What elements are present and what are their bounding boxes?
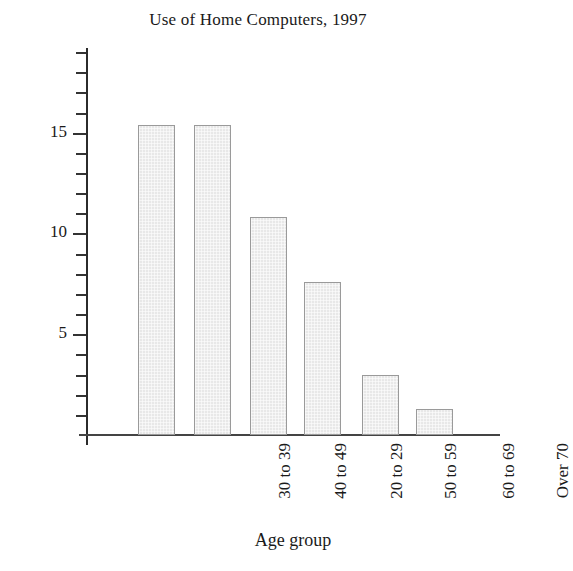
y-axis-minor-tick — [76, 193, 86, 195]
y-axis-minor-tick — [76, 213, 86, 215]
bar — [416, 409, 453, 435]
plot-area: 51015 — [86, 48, 500, 435]
y-axis-minor-tick — [76, 92, 86, 94]
y-axis-tick-label: 15 — [50, 122, 67, 142]
y-axis-minor-tick — [76, 415, 86, 417]
x-axis-title: Age group — [86, 530, 500, 551]
chart-title: Use of Home Computers, 1997 — [0, 10, 516, 30]
bar — [138, 125, 175, 435]
y-axis-minor-tick — [76, 173, 86, 175]
y-axis-minor-tick — [76, 153, 86, 155]
y-axis-minor-tick — [76, 354, 86, 356]
y-axis-minor-tick — [76, 375, 86, 377]
bar — [250, 217, 287, 435]
y-axis-major-tick: 15 — [73, 133, 86, 135]
y-axis-minor-tick — [76, 113, 86, 115]
y-axis-minor-tick — [76, 314, 86, 316]
y-axis-major-tick: 10 — [73, 233, 86, 235]
y-axis-minor-tick — [76, 254, 86, 256]
x-axis-tick-label: 60 to 69 — [499, 443, 519, 553]
y-axis-major-tick: 5 — [73, 334, 86, 336]
x-axis-tick-label: Over 70 — [553, 443, 573, 553]
y-axis-tick-label: 5 — [59, 323, 68, 343]
bar — [362, 375, 399, 435]
y-axis-minor-tick — [76, 52, 86, 54]
bar — [194, 125, 231, 435]
y-axis-minor-tick — [76, 274, 86, 276]
y-axis-tick-label: 10 — [50, 222, 67, 242]
y-axis-minor-tick — [76, 395, 86, 397]
bar — [304, 282, 341, 435]
y-axis-minor-tick — [76, 72, 86, 74]
y-axis-minor-tick — [76, 294, 86, 296]
